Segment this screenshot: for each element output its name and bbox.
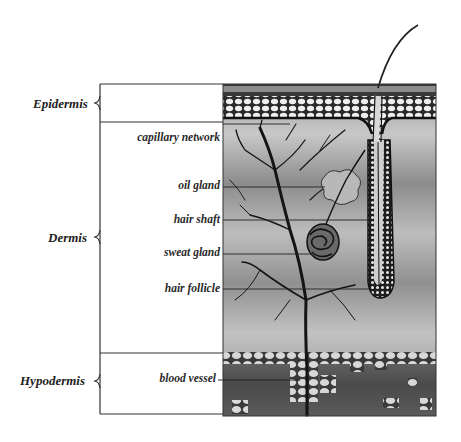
label-hair-shaft: hair shaft [174, 213, 220, 225]
skin-diagram: Epidermis Dermis Hypodermis capillary ne… [0, 0, 461, 442]
hair-strand [378, 25, 418, 88]
label-dermis: Dermis [48, 230, 87, 246]
skin-section-panel [223, 25, 436, 416]
label-oil-gland: oil gland [178, 179, 220, 191]
oil-gland-shape [321, 170, 360, 205]
hair-follicle-shape [368, 140, 394, 298]
label-sweat-gland: sweat gland [164, 246, 220, 258]
label-hypodermis: Hypodermis [20, 373, 85, 389]
label-epidermis: Epidermis [33, 96, 88, 112]
label-hair-follicle: hair follicle [165, 282, 220, 294]
label-blood-vessel: blood vessel [159, 372, 216, 384]
label-capillary-network: capillary network [137, 131, 220, 143]
